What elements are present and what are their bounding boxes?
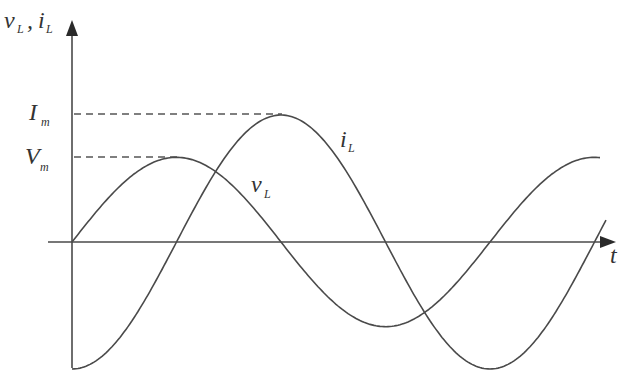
current-peak-label-i: I: [28, 99, 38, 125]
y-axis-label-v-subscript: L: [16, 22, 24, 36]
axes: [48, 32, 604, 368]
current-curve-label-i: i: [340, 126, 347, 152]
current-peak-label-subscript: m: [41, 115, 50, 129]
y-axis-label-i: i: [38, 7, 45, 33]
inductor-waveform-diagram: v L , i L t I m V m i L v L: [0, 0, 631, 377]
x-axis-label-t: t: [610, 242, 618, 268]
reference-lines: [74, 114, 282, 157]
y-axis-arrow-icon: [66, 20, 78, 36]
y-axis-label-v: v: [4, 7, 15, 33]
voltage-curve-label-v: v: [251, 171, 262, 197]
y-axis-label-separator: ,: [27, 7, 33, 33]
current-curve-label-subscript: L: [347, 141, 355, 155]
voltage-curve-label-subscript: L: [263, 187, 271, 201]
voltage-peak-label-subscript: m: [40, 160, 49, 174]
y-axis-label-i-subscript: L: [45, 22, 53, 36]
